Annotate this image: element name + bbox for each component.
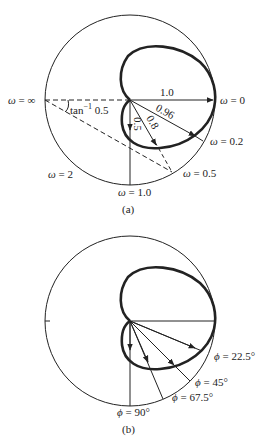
label-w-0-5: ω = 0.5 — [183, 167, 217, 179]
label-w-0: ω = 0 — [220, 94, 245, 106]
label-tan-angle: tan−1 0.5 — [70, 102, 109, 116]
label-w-0-2: ω = 0.2 — [210, 135, 243, 147]
vector-label-0-5: 0.5 — [132, 117, 144, 131]
diagram-canvas: 1.0 0.96 0.8 0.5 ω = ∞ ω = 0 ω = 0.2 ω =… — [0, 0, 272, 447]
vector-label-1-0: 1.0 — [160, 86, 174, 98]
dashed-tan-line — [45, 100, 172, 172]
arrow-45 — [130, 321, 174, 365]
label-w-inf: ω = ∞ — [8, 94, 35, 106]
caption-b: (b) — [122, 423, 135, 436]
figure-b: ϕ = 22.5° ϕ = 45° ϕ = 67.5° ϕ = 90° (b) — [45, 236, 255, 436]
angle-arc — [65, 100, 69, 112]
label-phi-45: ϕ = 45° — [195, 376, 228, 388]
figure-a: 1.0 0.96 0.8 0.5 ω = ∞ ω = 0 ω = 0.2 ω =… — [8, 15, 245, 216]
radial-0-2 — [195, 136, 203, 141]
label-phi-90: ϕ = 90° — [117, 406, 150, 418]
polar-curve-b — [121, 267, 215, 369]
label-phi-67-5: ϕ = 67.5° — [172, 391, 213, 403]
label-w-1-0: ω = 1.0 — [118, 186, 152, 198]
label-w-2: ω = 2 — [48, 168, 73, 180]
caption-a: (a) — [122, 203, 135, 216]
label-phi-22-5: ϕ = 22.5° — [214, 350, 255, 362]
